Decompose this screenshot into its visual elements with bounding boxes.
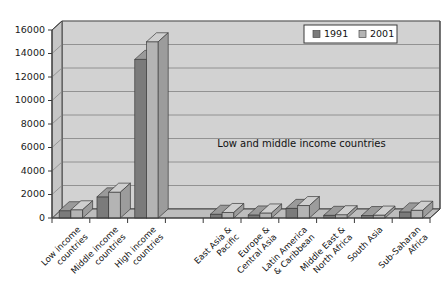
plot-left-wall — [52, 21, 62, 218]
y-axis-tick-label: 10000 — [15, 94, 45, 105]
chart-canvas: 0200040006000800010000120001400016000 Lo… — [0, 0, 441, 300]
y-axis-tick-labels: 0200040006000800010000120001400016000 — [15, 24, 45, 223]
bar — [147, 33, 169, 218]
x-axis-category-label: East Asia &Pacific — [192, 224, 241, 273]
legend-swatch — [359, 31, 366, 38]
bar-front-face — [411, 210, 423, 218]
bar-front-face — [210, 214, 222, 218]
y-axis-tick-label: 6000 — [21, 141, 45, 152]
bar-front-face — [222, 212, 234, 218]
y-axis-tick-label: 14000 — [15, 47, 45, 58]
bar-front-face — [298, 206, 310, 218]
bar-front-face — [260, 213, 272, 218]
bar-chart: 0200040006000800010000120001400016000 Lo… — [0, 0, 441, 300]
x-axis-category-label: South Asia — [345, 224, 384, 263]
bar-front-face — [286, 208, 298, 218]
x-axis-category-label-line: South Asia — [345, 224, 384, 263]
bar-front-face — [71, 210, 83, 218]
y-axis-tick-label: 8000 — [21, 118, 45, 129]
bar-front-face — [59, 211, 71, 218]
y-axis-tick-label: 4000 — [21, 165, 45, 176]
chart-annotation-text: Low and middle income countries — [217, 138, 385, 149]
legend-label: 1991 — [324, 28, 348, 39]
chart-annotations: Low and middle income countries — [217, 138, 385, 149]
x-axis-category-labels: Low incomecountriesMiddle incomecountrie… — [39, 224, 430, 283]
bar-front-face — [109, 192, 121, 218]
y-axis-tick-label: 16000 — [15, 24, 45, 35]
bar-front-face — [135, 59, 147, 218]
y-axis-tick-label: 2000 — [21, 188, 45, 199]
bar-side-face — [158, 33, 168, 218]
legend-swatch — [313, 31, 320, 38]
legend-label: 2001 — [370, 28, 394, 39]
chart-legend: 19912001 — [304, 25, 397, 43]
bar-front-face — [399, 212, 411, 218]
bar-front-face — [97, 197, 109, 218]
bar-front-face — [147, 42, 159, 218]
x-axis-category-label: High incomecountries — [113, 224, 166, 277]
x-axis-category-label: Sub-SaharanAfrica — [376, 224, 429, 277]
y-axis-tick-label: 0 — [39, 212, 45, 223]
y-axis-tick-label: 12000 — [15, 71, 45, 82]
